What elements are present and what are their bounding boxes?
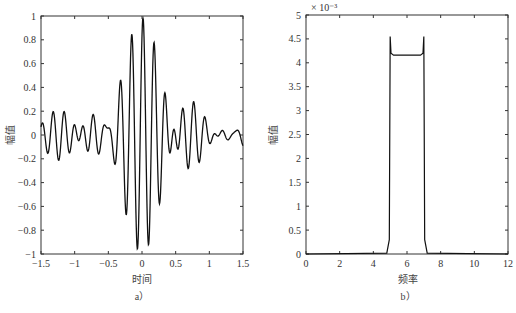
x-tick-label: 8 (438, 258, 443, 269)
x-axis-label-a: 时间 (132, 273, 152, 285)
plot-area-b (306, 15, 508, 254)
y-tick-label: −0.4 (18, 177, 36, 188)
y-axis-ticks-b: 00.511.522.533.544.55 (289, 10, 509, 260)
y-tick-label: 4.5 (289, 33, 302, 44)
y-axis-label-b: 幅值 (267, 125, 279, 145)
figure: −1.5−1−0.500.511.5 −1−0.8−0.6−0.4−0.200.… (0, 0, 516, 313)
y-tick-label: 0.4 (24, 82, 37, 93)
panel-b-spectrum: 024681012 00.511.522.533.544.55 × 10⁻³ 频… (267, 2, 513, 302)
y-tick-label: −0.6 (18, 201, 36, 212)
x-axis-ticks-b: 024681012 (304, 15, 514, 269)
y-tick-label: 2.5 (289, 129, 302, 140)
x-tick-label: 0 (140, 258, 145, 269)
x-tick-label: 1 (207, 258, 212, 269)
x-tick-label: 0.5 (169, 258, 182, 269)
caption-b: b） (401, 291, 416, 302)
x-tick-label: −1.5 (32, 258, 50, 269)
x-tick-label: 6 (405, 258, 410, 269)
y-tick-label: −0.2 (18, 153, 36, 164)
y-tick-label: 4 (296, 57, 301, 68)
x-tick-label: −1 (69, 258, 80, 269)
y-tick-label: −0.8 (18, 225, 36, 236)
y-tick-label: 2 (296, 153, 301, 164)
x-tick-label: 12 (503, 258, 513, 269)
signal-line (41, 18, 243, 248)
y-tick-label: 1.5 (289, 177, 302, 188)
y-tick-label: 0.8 (24, 34, 37, 45)
y-axis-label-a: 幅值 (4, 125, 16, 145)
y-tick-label: 3.5 (289, 81, 302, 92)
y-tick-label: 5 (296, 10, 301, 21)
caption-a: a） (135, 291, 149, 302)
y-tick-label: 3 (296, 105, 301, 116)
x-axis-label-b: 频率 (398, 273, 418, 285)
y-tick-label: −1 (25, 249, 36, 260)
panel-a-time-signal: −1.5−1−0.500.511.5 −1−0.8−0.6−0.4−0.200.… (4, 11, 249, 303)
y-tick-label: 1 (296, 201, 301, 212)
x-tick-label: 0 (304, 258, 309, 269)
y-tick-label: 0 (31, 130, 36, 141)
spectrum-line (306, 37, 508, 254)
x-tick-label: 10 (469, 258, 479, 269)
y-tick-label: 0 (296, 249, 301, 260)
x-tick-label: 4 (371, 258, 376, 269)
y-tick-label: 1 (31, 11, 36, 22)
x-tick-label: 1.5 (237, 258, 250, 269)
y-tick-label: 0.6 (24, 58, 37, 69)
x-tick-label: 2 (337, 258, 342, 269)
y-tick-label: 0.5 (289, 225, 302, 236)
y-multiplier-b: × 10⁻³ (311, 2, 337, 13)
y-tick-label: 0.2 (24, 106, 37, 117)
x-tick-label: −0.5 (99, 258, 117, 269)
